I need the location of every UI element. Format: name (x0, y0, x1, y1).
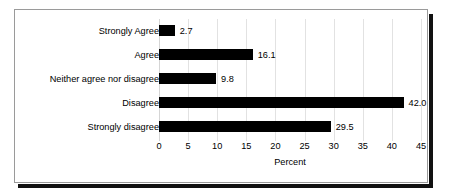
bar-value-label: 42.0 (409, 91, 427, 115)
bar (159, 73, 216, 84)
x-tick-label: 10 (212, 141, 222, 151)
bar-row: Agree16.1 (15, 43, 429, 67)
x-axis: 051015202530354045 Percent (15, 141, 429, 181)
category-label: Strongly disagree (0, 115, 159, 139)
bar-row: Strongly disagree29.5 (15, 115, 429, 139)
bar (159, 25, 175, 36)
bar (159, 97, 404, 108)
category-label: Strongly Agree (0, 19, 159, 43)
x-tick-label: 35 (358, 141, 368, 151)
category-label: Disagree (0, 91, 159, 115)
plot-area: Strongly Agree2.7Agree16.1Neither agree … (15, 10, 429, 184)
bar (159, 121, 331, 132)
bar-row: Disagree42.0 (15, 91, 429, 115)
frame-shadow-bottom (18, 184, 433, 188)
bar-row: Neither agree nor disagree9.8 (15, 67, 429, 91)
bar-value-label: 2.7 (180, 19, 193, 43)
x-tick-label: 20 (270, 141, 280, 151)
category-label: Agree (0, 43, 159, 67)
frame-shadow-right (429, 14, 433, 188)
bar-value-label: 29.5 (336, 115, 354, 139)
bar-value-label: 16.1 (258, 43, 276, 67)
category-label: Neither agree nor disagree (0, 67, 159, 91)
x-tick-label: 30 (329, 141, 339, 151)
x-tick-label: 15 (241, 141, 251, 151)
x-tick-label: 25 (299, 141, 309, 151)
x-axis-title: Percent (159, 157, 421, 167)
x-tick-label: 45 (416, 141, 426, 151)
x-tick-label: 40 (387, 141, 397, 151)
bar (159, 49, 253, 60)
bar-value-label: 9.8 (221, 67, 234, 91)
x-tick-label: 5 (186, 141, 191, 151)
x-tick-label: 0 (156, 141, 161, 151)
bar-row: Strongly Agree2.7 (15, 19, 429, 43)
chart-figure-frame: Strongly Agree2.7Agree16.1Neither agree … (14, 9, 428, 183)
